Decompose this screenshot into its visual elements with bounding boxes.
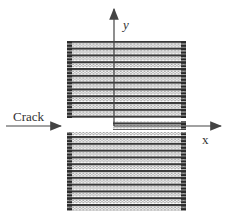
lattice-crack-diagram: y x Crack xyxy=(0,0,231,218)
y-axis-label: y xyxy=(123,18,129,31)
lattice-bottom-block xyxy=(67,132,186,211)
crack-label: Crack xyxy=(13,110,44,123)
x-axis-label: x xyxy=(202,133,209,146)
lattice-top-block xyxy=(67,41,186,118)
